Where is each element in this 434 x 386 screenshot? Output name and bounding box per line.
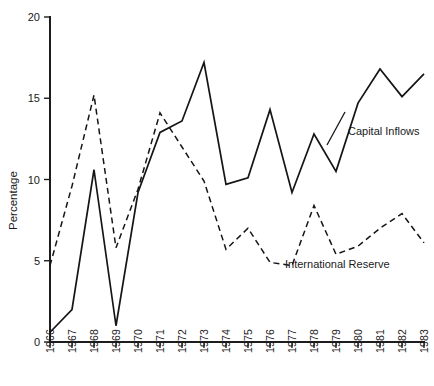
x-tick-label: 1967 (66, 329, 78, 353)
y-axis: 05101520 Percentage (7, 11, 50, 348)
x-axis: 1966196719681969197019711972197319741975… (44, 329, 430, 353)
series-line-capital-inflows (50, 63, 424, 333)
x-tick-label: 1975 (242, 329, 254, 353)
x-tick-label: 1973 (198, 329, 210, 353)
y-tick-label: 5 (34, 255, 40, 267)
x-tick-label: 1966 (44, 329, 56, 353)
x-tick-label: 1970 (132, 329, 144, 353)
x-tick-label: 1976 (264, 329, 276, 353)
x-tick-label: 1983 (418, 329, 430, 353)
y-tick-label: 10 (28, 174, 40, 186)
capital-inflows-leader-line (327, 112, 345, 145)
line-chart: 05101520 Percentage 19661967196819691970… (0, 0, 434, 386)
x-tick-label: 1969 (110, 329, 122, 353)
x-tick-label: 1980 (352, 329, 364, 353)
x-tick-label: 1974 (220, 329, 232, 353)
series-label-international-reserve: International Reserve (285, 258, 390, 270)
y-tick-label: 20 (28, 11, 40, 23)
annotation-group: Capital Inflows International Reserve (285, 112, 420, 270)
x-tick-label: 1981 (374, 329, 386, 353)
x-tick-label: 1978 (308, 329, 320, 353)
y-axis-title: Percentage (7, 171, 19, 230)
x-tick-group: 1966196719681969197019711972197319741975… (44, 329, 430, 353)
series-label-capital-inflows: Capital Inflows (348, 125, 420, 137)
x-tick-label: 1968 (88, 329, 100, 353)
x-tick-label: 1982 (396, 329, 408, 353)
x-tick-label: 1979 (330, 329, 342, 353)
x-tick-label: 1972 (176, 329, 188, 353)
x-tick-label: 1971 (154, 329, 166, 353)
y-tick-label: 15 (28, 92, 40, 104)
y-tick-label: 0 (34, 336, 40, 348)
y-tick-group: 05101520 (28, 11, 50, 348)
chart-canvas: 05101520 Percentage 19661967196819691970… (0, 0, 434, 386)
x-tick-label: 1977 (286, 329, 298, 353)
series-group (50, 63, 424, 333)
